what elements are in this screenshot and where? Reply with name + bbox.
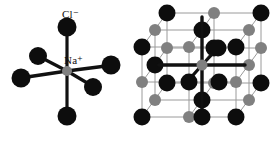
lattice-sphere-sodium: [208, 7, 220, 19]
lattice-sphere-sodium-center-highlighted: [197, 60, 208, 71]
lattice-sphere-chloride-front-right: [211, 74, 228, 91]
lattice-sphere-sodium: [149, 24, 161, 36]
crystal-lattice-panel: [133, 0, 275, 145]
lattice-sphere-sodium: [230, 76, 242, 88]
chloride-sphere-bottom: [58, 107, 77, 126]
chloride-sphere-left: [12, 69, 31, 88]
lattice-sphere-chloride: [181, 74, 198, 91]
sodium-label: Na⁺: [64, 55, 83, 66]
lattice-sphere-chloride: [228, 109, 245, 126]
bond-right: [67, 66, 106, 71]
lattice-sphere-sodium: [136, 76, 148, 88]
chloride-sphere-right: [102, 56, 121, 75]
lattice-sphere-sodium: [255, 42, 267, 54]
lattice-sphere-chloride: [159, 75, 176, 92]
nacl-structure-figure: Cl⁻ Na⁺: [0, 0, 275, 145]
lattice-sphere-chloride: [159, 5, 176, 22]
octahedron-svg: [0, 0, 135, 145]
lattice-sphere-sodium: [183, 111, 195, 123]
lattice-sphere-chloride: [253, 5, 270, 22]
lattice-sphere-chloride: [253, 75, 270, 92]
lattice-sphere-sodium: [243, 94, 255, 106]
chloride-sphere-top: [58, 18, 77, 37]
lattice-sphere-chloride: [228, 39, 245, 56]
lattice-sphere-chloride-back-highlighted: [210, 40, 227, 57]
octahedral-coordination-panel: Cl⁻ Na⁺: [0, 0, 135, 145]
chloride-label: Cl⁻: [62, 9, 79, 20]
lattice-sphere-sodium: [183, 41, 195, 53]
lattice-sphere-chloride: [134, 39, 151, 56]
lattice-sphere-chloride-bottom-highlighted: [194, 109, 211, 126]
lattice-sphere-chloride: [134, 109, 151, 126]
sodium-sphere-center: [62, 66, 72, 76]
lattice-sphere-sodium: [161, 42, 173, 54]
chloride-sphere-back: [29, 47, 47, 65]
lattice-sphere-sodium: [149, 94, 161, 106]
lattice-sphere-sodium: [243, 24, 255, 36]
bond-left: [27, 71, 67, 77]
chloride-sphere-front: [84, 78, 102, 96]
lattice-svg: [133, 0, 275, 145]
